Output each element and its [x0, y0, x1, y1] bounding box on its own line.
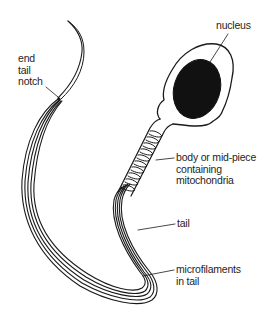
label-mid-piece: body or mid-piece containing mitochondri…: [176, 152, 256, 187]
sperm-diagram: end tail notch nucleus body or mid-piece…: [0, 0, 268, 314]
leader-tail: [138, 224, 175, 230]
label-microfilaments: microfilaments in tail: [176, 264, 241, 287]
end-tail: [58, 21, 84, 99]
leader-end-tail-notch: [46, 87, 58, 97]
mid-piece: [118, 119, 173, 196]
label-nucleus: nucleus: [216, 20, 251, 32]
label-tail: tail: [177, 218, 190, 230]
leader-mid-piece: [156, 158, 174, 160]
tail: [22, 99, 157, 304]
label-end-tail-notch: end tail notch: [18, 53, 43, 88]
